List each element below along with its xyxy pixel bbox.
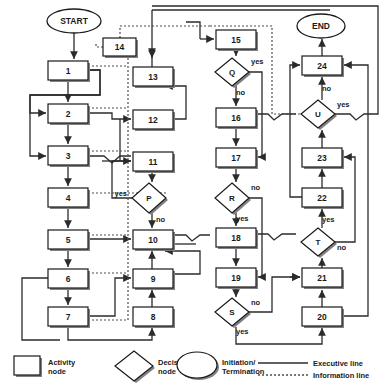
branch-label-r-yes: yes [236,214,249,223]
legend-information: Information line [258,371,369,380]
legend-executive: Executive line [258,359,363,368]
activity-node-22[interactable]: 22 [302,188,344,209]
terminator-label: END [312,21,330,31]
branch-label-q-yes: yes [251,57,264,66]
branch-label-q-no: no [236,88,246,97]
activity-node-8[interactable]: 8 [133,307,175,328]
branch-label-p-yes: yes [114,189,127,198]
activity-node-label: 5 [66,235,71,245]
flowchart-svg: 123456789101112131415161718192021222324P… [0,0,387,390]
activity-node-label: 21 [317,273,327,283]
activity-node-9[interactable]: 9 [133,269,175,290]
activity-node-3[interactable]: 3 [48,146,90,167]
activity-node-1[interactable]: 1 [48,61,90,82]
branch-label-s-no: no [251,298,261,307]
decision-node-P[interactable]: P [132,183,168,215]
activity-node-23[interactable]: 23 [302,148,344,169]
activity-node-label: 4 [66,193,71,203]
branch-label-u-no: no [322,84,332,93]
svg-text:node: node [158,367,176,376]
decision-node-S[interactable]: S [215,298,251,328]
terminator-label: START [60,16,89,26]
activity-node-label: 23 [317,153,327,163]
activity-node-17[interactable]: 17 [216,148,258,169]
activity-node-label: 11 [149,157,158,167]
activity-node-label: 15 [231,35,241,45]
activity-node-14[interactable]: 14 [103,38,138,58]
branch-label-t-yes: yes [322,215,335,224]
branch-label-p-no: no [156,215,166,224]
activity-node-label: 22 [317,193,327,203]
activity-node-5[interactable]: 5 [48,230,90,251]
decision-node-label: P [146,194,152,203]
svg-text:Activity: Activity [48,358,76,367]
activity-node-7[interactable]: 7 [48,307,90,328]
activity-node-10[interactable]: 10 [133,230,175,251]
svg-text:Information line: Information line [313,371,369,380]
activity-node-4[interactable]: 4 [48,188,90,209]
activity-node-label: 18 [231,233,241,243]
terminator-end[interactable]: END [297,14,345,38]
activity-node-label: 7 [66,312,71,322]
activity-node-label: 12 [148,115,158,125]
decision-node-T[interactable]: T [301,228,337,258]
decision-node-label: T [316,238,321,247]
decision-node-Q[interactable]: Q [215,58,251,88]
decision-node-label: R [229,194,235,203]
activity-node-label: 8 [151,312,156,322]
activity-node-label: 6 [66,274,71,284]
activity-node-label: 24 [317,61,327,71]
activity-node-label: 17 [231,153,241,163]
terminator-start[interactable]: START [47,9,101,33]
activity-node-6[interactable]: 6 [48,269,90,290]
branch-label-u-yes: yes [337,100,350,109]
decision-node-R[interactable]: R [215,183,251,215]
activity-node-18[interactable]: 18 [216,228,258,249]
activity-node-label: 1 [66,66,71,76]
activity-node-label: 13 [148,72,158,82]
svg-text:Executive line: Executive line [313,359,363,368]
decision-node-label: Q [229,68,235,77]
activity-node-24[interactable]: 24 [302,56,344,77]
activity-node-16[interactable]: 16 [216,108,258,129]
branch-label-s-yes: yes [236,327,249,336]
decision-node-U[interactable]: U [301,100,337,130]
activity-node-label: 19 [231,273,241,283]
svg-text:Initiation/: Initiation/ [222,358,256,367]
activity-node-label: 2 [66,109,71,119]
activity-node-21[interactable]: 21 [302,268,344,289]
branch-label-r-no: no [251,183,261,192]
svg-text:node: node [48,367,66,376]
activity-node-15[interactable]: 15 [216,30,258,51]
legend-activity: Activitynode [14,356,76,377]
activity-node-12[interactable]: 12 [133,110,175,131]
activity-node-19[interactable]: 19 [216,268,258,289]
activity-node-13[interactable]: 13 [133,67,175,88]
activity-node-2[interactable]: 2 [48,104,90,125]
activity-node-label: 20 [317,312,327,322]
activity-node-label: 3 [66,151,71,161]
activity-node-label: 10 [148,235,158,245]
node-layer: 123456789101112131415161718192021222324P… [47,9,345,328]
activity-node-label: 9 [151,274,156,284]
activity-node-20[interactable]: 20 [302,307,344,328]
legend-terminal: Initiation/Termination [177,352,265,380]
activity-node-11[interactable]: 11 [133,152,175,173]
activity-node-label: 16 [231,113,241,123]
branch-label-t-no: no [337,243,347,252]
flowchart-canvas: 123456789101112131415161718192021222324P… [0,0,387,390]
activity-node-label: 14 [115,42,125,52]
legend-layer: ActivitynodeDecisionnodeInitiation/Termi… [14,351,369,383]
decision-node-label: S [229,308,235,317]
information-lines [88,26,300,320]
decision-node-label: U [315,110,321,119]
